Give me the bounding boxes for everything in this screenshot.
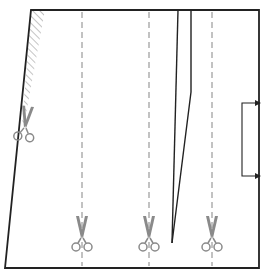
pattern-outline bbox=[5, 10, 259, 268]
arrow-right-icon bbox=[255, 173, 261, 179]
outline-shape bbox=[5, 10, 259, 268]
arrow-right-icon bbox=[255, 100, 261, 106]
dart bbox=[172, 10, 191, 243]
pattern-diagram bbox=[0, 0, 269, 276]
bracket-line bbox=[242, 103, 256, 176]
scissors-icons bbox=[13, 105, 222, 251]
